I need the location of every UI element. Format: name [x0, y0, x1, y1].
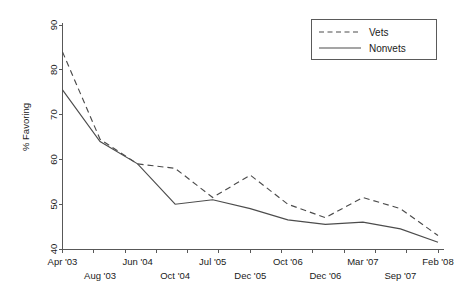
x-tick-label: Dec '06: [309, 270, 341, 281]
x-axis: Apr '03Aug '03Jun '04Oct '04Jul '05Dec '…: [48, 249, 454, 281]
x-tick-label: Apr '03: [48, 256, 78, 267]
x-tick-label: Oct '04: [160, 270, 190, 281]
x-tick-label: Jun '04: [122, 256, 152, 267]
legend-label-nonvets: Nonvets: [369, 43, 406, 54]
x-tick-label: Feb '08: [422, 256, 453, 267]
x-tick-label: Dec '05: [234, 270, 266, 281]
y-tick-label: 90: [48, 20, 59, 31]
x-tick-label: Aug '03: [84, 270, 116, 281]
legend-label-vets: Vets: [369, 27, 388, 38]
y-axis-title: % Favoring: [20, 103, 31, 151]
y-axis: 405060708090% Favoring: [20, 20, 63, 255]
series-layer: [63, 52, 439, 242]
y-tick-label: 80: [48, 65, 59, 76]
x-tick-label: Mar '07: [347, 256, 378, 267]
chart-container: 405060708090% Favoring Apr '03Aug '03Jun…: [0, 0, 460, 301]
x-tick-label: Oct '06: [273, 256, 303, 267]
chart-legend: VetsNonvets: [311, 19, 436, 59]
series-line-nonvets: [63, 90, 439, 242]
x-tick-label: Sep '07: [384, 270, 416, 281]
y-tick-label: 50: [48, 199, 59, 210]
x-tick-label: Jul '05: [199, 256, 226, 267]
y-tick-label: 70: [48, 109, 59, 120]
y-tick-label: 40: [48, 244, 59, 255]
series-line-vets: [63, 52, 439, 236]
line-chart: 405060708090% Favoring Apr '03Aug '03Jun…: [0, 0, 460, 301]
y-tick-label: 60: [48, 154, 59, 165]
